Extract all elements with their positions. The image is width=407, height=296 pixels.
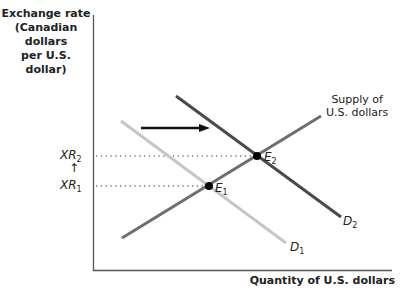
e2-label: E2 [264, 150, 277, 166]
up-arrow-icon: ↑ [69, 163, 79, 173]
shift-arrow-head [199, 124, 210, 132]
equilibrium-e2-dot [253, 152, 261, 160]
supply-label: Supply of U.S. dollars [326, 93, 388, 119]
equilibrium-e1-dot [205, 182, 213, 190]
supply-curve [122, 116, 321, 238]
d2-label: D2 [343, 214, 357, 230]
supply-label-line2: U.S. dollars [326, 106, 388, 119]
d1-label: D1 [290, 240, 304, 256]
e1-label: E1 [215, 181, 228, 197]
x-axis-label: Quantity of U.S. dollars [250, 274, 395, 287]
xr1-label: XR1 [60, 178, 82, 194]
supply-label-line1: Supply of [326, 93, 388, 106]
